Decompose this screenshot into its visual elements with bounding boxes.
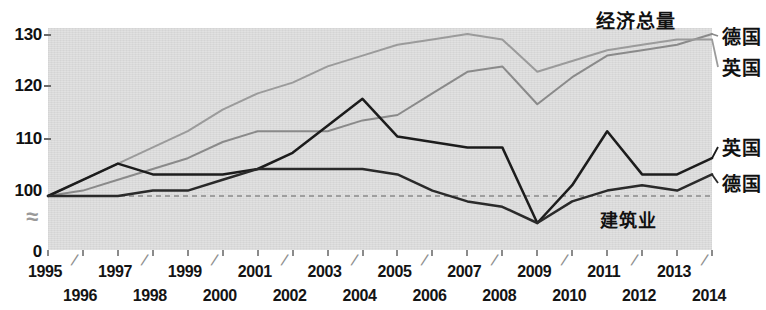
economy-group-label: 经济总量 xyxy=(596,12,676,31)
x-axis-label-2013: 2013 xyxy=(657,264,691,280)
x-axis-tick xyxy=(606,250,608,256)
x-axis-label-2007: 2007 xyxy=(447,264,481,280)
x-axis-label-2006: 2006 xyxy=(412,288,446,304)
x-axis-tick xyxy=(536,250,538,256)
x-axis-label-2002: 2002 xyxy=(273,288,307,304)
x-axis-label-1995: 1995 xyxy=(28,264,62,280)
x-axis-label-2010: 2010 xyxy=(552,288,586,304)
x-axis-label-2000: 2000 xyxy=(203,288,237,304)
x-axis-tick xyxy=(466,250,468,256)
series-leader-2 xyxy=(712,147,718,158)
x-axis-tick xyxy=(292,250,294,256)
x-axis-tick xyxy=(117,250,119,256)
series-leader-0 xyxy=(712,34,718,36)
x-axis-tick xyxy=(82,250,84,256)
x-axis-tick xyxy=(187,250,189,256)
x-axis-label-2011: 2011 xyxy=(587,264,620,280)
x-axis-label-1996: 1996 xyxy=(63,288,97,304)
chart-root: 130 120 110 100 0 ≈ ////////// 199519971… xyxy=(0,0,766,310)
x-axis-tick xyxy=(152,250,154,256)
x-axis-tick xyxy=(47,250,49,256)
series-leader-3 xyxy=(712,174,718,183)
x-axis-label-2005: 2005 xyxy=(377,264,411,280)
x-axis-label-2003: 2003 xyxy=(308,264,342,280)
x-axis-tick xyxy=(711,250,713,256)
series-line-2 xyxy=(48,99,712,223)
x-axis-tick xyxy=(501,250,503,256)
x-axis-label-1998: 1998 xyxy=(133,288,167,304)
construction-germany-label: 德国 xyxy=(722,175,762,194)
x-axis-label-2012: 2012 xyxy=(622,288,656,304)
x-axis-label-2014: 2014 xyxy=(692,288,726,304)
x-axis-tick xyxy=(676,250,678,256)
economy-uk-label: 英国 xyxy=(722,59,762,78)
x-axis-tick xyxy=(257,250,259,256)
x-axis-label-2009: 2009 xyxy=(517,264,551,280)
x-axis-tick xyxy=(571,250,573,256)
series-leader-1 xyxy=(712,39,718,67)
x-axis-label-2008: 2008 xyxy=(482,288,516,304)
x-axis-label-1997: 1997 xyxy=(98,264,132,280)
economy-germany-label: 德国 xyxy=(722,28,762,47)
x-axis-label-1999: 1999 xyxy=(168,264,202,280)
series-paths-group xyxy=(48,34,718,223)
x-axis-label-2004: 2004 xyxy=(343,288,377,304)
x-axis-tick xyxy=(362,250,364,256)
x-axis-tick xyxy=(431,250,433,256)
x-axis-tick xyxy=(222,250,224,256)
x-axis-tick xyxy=(327,250,329,256)
x-axis-label-2001: 2001 xyxy=(238,264,272,280)
construction-group-label: 建筑业 xyxy=(600,212,657,230)
x-axis-tick xyxy=(396,250,398,256)
construction-uk-label: 英国 xyxy=(722,139,762,158)
x-axis-tick xyxy=(641,250,643,256)
